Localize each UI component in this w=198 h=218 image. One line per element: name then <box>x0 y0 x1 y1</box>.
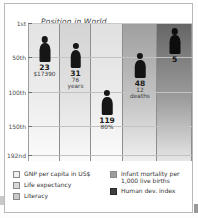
legend-label-infant-line2: 1,000 live births <box>121 177 170 184</box>
gridline-192nd <box>29 155 192 156</box>
legend-swatch-infant <box>110 171 117 178</box>
figure-head-icon <box>171 28 178 35</box>
chart-frame: Position in World 23 $17390 <box>4 3 193 213</box>
figure-body-icon <box>135 60 146 78</box>
y-tick-label-192nd: 192nd <box>7 152 26 159</box>
figure-detail-infant-2: deaths <box>123 93 157 99</box>
chart-legend: GNP per capita in US$ Life expectancy Li… <box>9 171 189 211</box>
y-tick-label-50th: 50th <box>12 54 26 61</box>
legend-swatch-gnp <box>13 171 20 178</box>
legend-label-life: Life expectancy <box>24 181 71 188</box>
figure-body-icon <box>39 43 50 62</box>
legend-swatch-literacy <box>13 193 20 200</box>
figure-body-icon <box>169 35 180 54</box>
figure-detail-life-2: years <box>60 83 91 89</box>
y-tick-100th <box>28 92 32 93</box>
y-tick-1st <box>28 23 32 24</box>
figure-infant <box>129 53 151 78</box>
figure-gnp <box>34 36 55 62</box>
figure-life <box>65 43 86 68</box>
legend-swatch-life <box>13 182 20 189</box>
figure-detail-gnp: $17390 <box>29 71 60 77</box>
legend-label-literacy: Literacy <box>24 192 48 199</box>
y-tick-label-150th: 150th <box>8 123 26 130</box>
figure-head-icon <box>72 43 78 49</box>
y-axis-labels: 1st 50th 100th 150th 192nd <box>5 4 26 164</box>
figure-literacy <box>96 90 118 115</box>
figure-head-icon <box>137 53 143 59</box>
y-tick-label-100th: 100th <box>8 89 26 96</box>
figure-body-icon <box>102 97 113 115</box>
y-tick-150th <box>28 126 32 127</box>
y-tick-50th <box>28 57 32 58</box>
legend-swatch-hdi <box>110 188 117 195</box>
figure-detail-literacy: 80% <box>91 124 123 130</box>
plot-area: 23 $17390 31 76 years 119 80% 48 <box>28 23 191 161</box>
y-tick-label-1st: 1st <box>17 20 26 27</box>
gridline-1st <box>29 23 192 24</box>
figure-hdi <box>163 28 186 54</box>
right-edge-artifact <box>194 204 198 213</box>
chart-screenshot: Position in World 23 $17390 <box>0 0 198 218</box>
figure-head-icon <box>104 90 110 96</box>
legend-label-gnp: GNP per capita in US$ <box>24 170 90 177</box>
legend-label-hdi: Human dev. index <box>121 187 175 194</box>
figure-value-hdi: 5 <box>157 55 192 64</box>
figure-body-icon <box>70 50 81 68</box>
y-tick-192nd <box>28 155 32 156</box>
figure-head-icon <box>41 36 48 43</box>
